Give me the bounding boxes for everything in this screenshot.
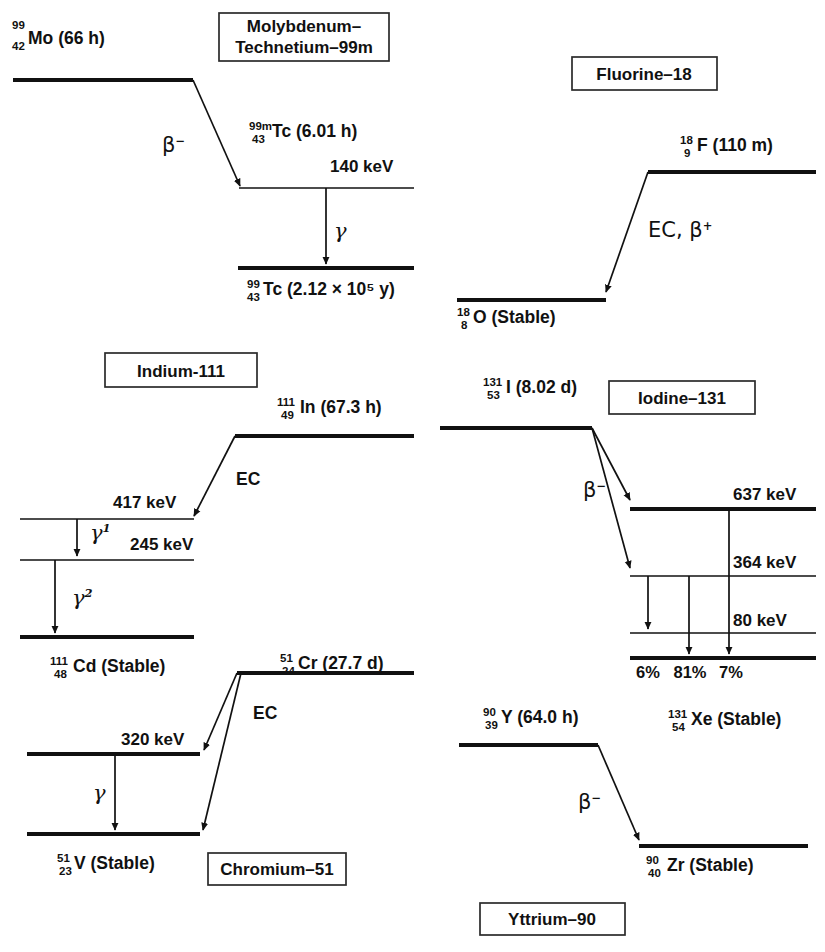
scheme-fluorine-18: Fluorine–18 18 9 F (110 m) EC, β+ 18 8 O… [457,57,816,331]
label-box-text: Fluorine–18 [596,65,691,84]
mo99-mass-number: 99 [12,19,25,31]
parent-label-f18: 18 9 F (110 m) [680,134,773,159]
svg-text:18: 18 [680,134,693,146]
level-label-xe131-ground: 131 54 Xe (Stable) [668,708,781,733]
tc99m-symbol-halflife: Tc (6.01 h) [272,121,357,141]
energy-label-417kev: 417 keV [113,493,177,512]
in111-atomic-number: 49 [281,409,294,421]
i131-symbol-halflife: I (8.02 d) [506,377,577,397]
cd111-symbol-halflife: Cd (Stable) [73,656,165,676]
level-label-cd111-ground: 111 48 Cd (Stable) [50,655,165,680]
level-label-zr90-ground: 90 40 Zr (Stable) [646,854,754,879]
svg-text:51: 51 [57,852,70,864]
svg-text:43: 43 [252,133,265,145]
svg-text:43: 43 [247,291,260,303]
xe131-atomic-number: 54 [672,721,685,733]
tc99-symbol-halflife: Tc (2.12 × 10⁵ y) [263,279,395,299]
label-box-molybdenum-technetium: Molybdenum– Technetium–99m [219,13,389,61]
scheme-chromium-51: Chromium–51 51 24 Cr (27.7 d) EC 320 keV… [27,652,414,885]
cr51-symbol-halflife: Cr (27.7 d) [298,653,384,673]
svg-text:99m: 99m [249,120,272,132]
label-box-text: Chromium–51 [220,860,333,879]
svg-text:131: 131 [668,708,688,720]
mo99-atomic-number: 42 [12,40,25,52]
svg-text:131: 131 [483,376,503,388]
f18-symbol-halflife: F (110 m) [697,135,773,155]
energy-label-245kev: 245 keV [130,535,194,554]
svg-text:48: 48 [54,668,67,680]
transition-ec-beta-plus-f18 [606,172,648,292]
svg-text:99: 99 [247,278,260,290]
cd111-atomic-number: 48 [54,668,67,680]
svg-text:42: 42 [12,40,25,52]
y90-symbol-halflife: Y (64.0 h) [501,707,579,727]
label-box-yttrium-90: Yttrium–90 [480,903,625,935]
energy-label-80kev: 80 keV [733,611,788,630]
transition-beta-minus-mo99 [193,80,240,186]
transition-ec-cr51-to-ground [203,673,241,830]
cd111-mass-number: 111 [50,655,69,667]
tc99m-mass-number: 99m [249,120,272,132]
transition-ec-in111 [194,436,235,516]
svg-text:53: 53 [487,389,500,401]
v51-mass-number: 51 [57,852,70,864]
f18-atomic-number: 9 [684,147,690,159]
svg-text:39: 39 [485,719,498,731]
i131-mass-number: 131 [483,376,503,388]
svg-text:51: 51 [280,652,293,664]
svg-text:54: 54 [672,721,685,733]
parent-label-mo99: 99 42 Mo (66 h) [12,19,105,52]
y90-mass-number: 90 [483,706,496,718]
svg-text:9: 9 [684,147,690,159]
i131-atomic-number: 53 [487,389,500,401]
tc99m-atomic-number: 43 [252,133,265,145]
decay-scheme-figure: Molybdenum– Technetium–99m 99 42 Mo (66 … [0,0,825,952]
svg-text:49: 49 [281,409,294,421]
xe131-mass-number: 131 [668,708,688,720]
y90-atomic-number: 39 [485,719,498,731]
parent-label-i131: 131 53 I (8.02 d) [483,376,577,401]
energy-label-364kev: 364 keV [733,553,797,572]
level-label-v51-ground: 51 23 V (Stable) [57,852,155,877]
label-box-indium-111: Indium-111 [105,353,257,387]
xe131-symbol-halflife: Xe (Stable) [691,709,781,729]
zr90-symbol-halflife: Zr (Stable) [667,855,754,875]
ec-label-in111: EC [236,469,261,489]
parent-label-y90: 90 39 Y (64.0 h) [483,706,579,731]
beta-minus-label-mo99: β− [162,133,185,157]
svg-text:8: 8 [461,319,468,331]
in111-mass-number: 111 [277,396,296,408]
label-box-line2: Technetium–99m [235,38,373,57]
o18-atomic-number: 8 [461,319,468,331]
f18-mass-number: 18 [680,134,693,146]
gamma-label-tc99m: γ [334,219,347,243]
branch-percent-3: 7% [719,663,743,681]
label-box-text: Indium-111 [137,362,225,381]
cr51-mass-number: 51 [280,652,293,664]
tc99-mass-number: 99 [247,278,260,290]
level-label-tc99m: 99m 43 Tc (6.01 h) [249,120,357,145]
beta-minus-label-y90: β− [578,790,601,814]
gamma-label-cr51: γ [93,781,106,805]
gamma2-label-in111: γ2 [72,586,93,610]
mo99-symbol-halflife: Mo (66 h) [28,28,105,48]
parent-label-in111: 111 49 In (67.3 h) [277,396,382,421]
scheme-yttrium-90: Yttrium–90 90 39 Y (64.0 h) β− 90 40 Zr … [459,706,808,935]
scheme-indium-111: Indium-111 111 49 In (67.3 h) EC 417 keV… [20,353,414,680]
label-box-iodine-131: Iodine–131 [609,381,755,414]
ec-beta-plus-label-f18: EC, β+ [648,218,712,242]
label-box-line1: Molybdenum– [247,17,361,36]
tc99-atomic-number: 43 [247,291,260,303]
transition-beta-minus-y90 [598,745,639,840]
scheme-molybdenum-technetium-99m: Molybdenum– Technetium–99m 99 42 Mo (66 … [12,13,414,303]
level-label-tc99-ground: 99 43 Tc (2.12 × 10⁵ y) [247,278,395,303]
svg-text:90: 90 [646,854,659,866]
svg-text:18: 18 [457,306,470,318]
energy-label-140kev: 140 keV [330,157,394,176]
in111-symbol-halflife: In (67.3 h) [300,397,382,417]
svg-text:23: 23 [59,865,72,877]
svg-text:99: 99 [12,19,25,31]
level-label-o18-ground: 18 8 O (Stable) [457,306,556,331]
transition-beta-minus-i131-b [592,428,630,568]
label-box-chromium-51: Chromium–51 [208,853,346,885]
